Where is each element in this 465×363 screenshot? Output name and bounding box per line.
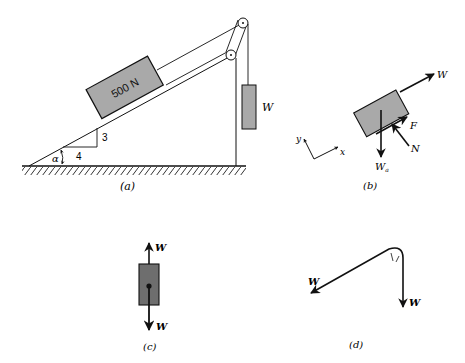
hanging-weight-label: W	[262, 101, 275, 114]
force-wa-label: Wa	[375, 161, 389, 173]
caption-a: (a)	[120, 180, 135, 193]
hanging-weight	[242, 85, 256, 129]
force-down-label: W	[156, 321, 169, 332]
axis-y-label: y	[295, 134, 302, 144]
pulley-link-b	[235, 24, 247, 56]
force-up-label: W	[155, 242, 168, 253]
caption-c: (c)	[143, 341, 157, 352]
ground-hatch	[22, 167, 246, 175]
force-down-label-d: W	[409, 297, 422, 308]
force-w-tension	[400, 74, 434, 92]
force-left-label: W	[308, 276, 321, 287]
pulley-link-a	[226, 20, 238, 52]
force-n-label: N	[410, 143, 421, 154]
axis-y	[304, 139, 314, 159]
force-w-label: W	[437, 69, 448, 80]
rope-lower	[166, 52, 227, 85]
axis-x	[314, 147, 338, 159]
axis-x-label: x	[340, 147, 345, 157]
angle-arc	[61, 150, 63, 164]
force-f-label: F	[409, 120, 418, 131]
angle-label: α	[52, 153, 59, 164]
caption-b: (b)	[363, 180, 377, 191]
rope-around-pulley	[311, 248, 403, 307]
caption-d: (d)	[349, 339, 363, 350]
pulley-angle-marker	[391, 253, 399, 262]
slope-run-label: 4	[76, 151, 82, 162]
panel-b: x y W Wa F N (b)	[295, 69, 448, 191]
force-n	[392, 124, 409, 146]
statics-diagram: 3 4 α 500 N W (a) x y	[0, 0, 465, 363]
panel-a: 3 4 α 500 N W (a)	[22, 18, 275, 193]
slope-rise-label: 3	[102, 132, 108, 143]
rope-upper	[157, 24, 241, 70]
panel-c: W W (c)	[139, 242, 169, 352]
panel-d: W W (d)	[308, 248, 422, 350]
